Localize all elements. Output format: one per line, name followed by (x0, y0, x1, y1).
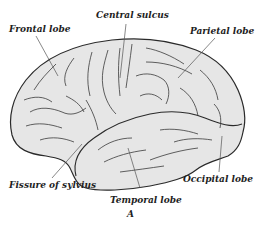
label-central-sulcus: Central sulcus (96, 11, 169, 20)
label-fissure-of-sylvius: Fissure of sylvius (9, 181, 96, 190)
label-temporal-lobe: Temporal lobe (110, 196, 182, 205)
brain-outline (11, 39, 245, 190)
figure-caption: A (127, 210, 134, 219)
label-parietal-lobe: Parietal lobe (190, 27, 254, 36)
label-occipital-lobe: Occipital lobe (183, 175, 253, 184)
label-frontal-lobe: Frontal lobe (9, 25, 71, 34)
